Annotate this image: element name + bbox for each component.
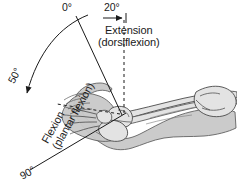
- ankle-range-of-motion-figure: 0° 20° 50° 90° Extension (dorsiflexion) …: [0, 0, 237, 182]
- label-extension: Extension (dorsiflexion): [98, 25, 160, 49]
- femur-knee-bone: [194, 86, 236, 116]
- label-twenty-degrees: 20°: [104, 2, 120, 13]
- label-extension-line1: Extension: [105, 24, 152, 36]
- label-zero-degrees: 0°: [62, 2, 72, 13]
- label-extension-line2: (dorsiflexion): [98, 37, 160, 49]
